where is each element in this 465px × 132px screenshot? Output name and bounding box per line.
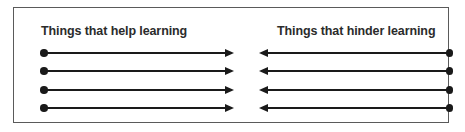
help-arrow-row-3 <box>40 84 234 96</box>
arrow-shaft <box>268 52 449 54</box>
hinder-arrow-row-3 <box>259 84 453 96</box>
arrow-head-left-icon <box>259 86 268 94</box>
column-heading-help: Things that help learning <box>41 23 187 39</box>
hinder-arrow-row-4 <box>259 102 453 114</box>
arrow-head-left-icon <box>259 104 268 112</box>
arrow-shaft <box>268 70 449 72</box>
arrow-shaft <box>44 52 225 54</box>
help-arrow-row-1 <box>40 47 234 59</box>
arrow-shaft <box>268 107 449 109</box>
hinder-arrow-row-1 <box>259 47 453 59</box>
arrow-head-right-icon <box>225 86 234 94</box>
arrow-head-right-icon <box>225 67 234 75</box>
arrow-shaft <box>44 70 225 72</box>
arrow-origin-dot-icon <box>446 49 454 57</box>
arrow-shaft <box>44 89 225 91</box>
hinder-arrow-row-2 <box>259 65 453 77</box>
arrow-origin-dot-icon <box>446 86 454 94</box>
arrow-shaft <box>268 89 449 91</box>
help-arrow-row-2 <box>40 65 234 77</box>
arrow-origin-dot-icon <box>446 104 454 112</box>
help-arrow-row-4 <box>40 102 234 114</box>
diagram-frame: Things that help learning Things that hi… <box>13 7 449 123</box>
column-heading-hinder: Things that hinder learning <box>277 23 435 39</box>
arrow-head-left-icon <box>259 67 268 75</box>
arrow-head-right-icon <box>225 104 234 112</box>
arrow-head-left-icon <box>259 49 268 57</box>
arrow-origin-dot-icon <box>446 67 454 75</box>
arrow-shaft <box>44 107 225 109</box>
diagram-canvas: Things that help learning Things that hi… <box>0 0 465 132</box>
arrow-head-right-icon <box>225 49 234 57</box>
